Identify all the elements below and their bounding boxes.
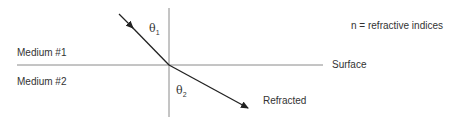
refracted-label: Refracted xyxy=(263,95,306,106)
medium-2-label: Medium #2 xyxy=(17,76,67,87)
medium-1-label: Medium #1 xyxy=(17,47,67,58)
incident-ray-upper xyxy=(119,14,133,28)
theta2-label: θ2 xyxy=(176,84,187,98)
surface-label: Surface xyxy=(332,59,367,70)
refraction-diagram: θ1 θ2 Medium #1 Medium #2 Surface Refrac… xyxy=(0,0,452,124)
theta1-label: θ1 xyxy=(149,22,160,36)
legend-refractive-indices: n = refractive indices xyxy=(351,20,443,31)
